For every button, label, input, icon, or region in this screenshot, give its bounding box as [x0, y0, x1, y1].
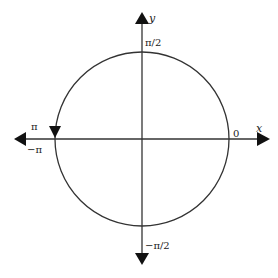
x-axis-label: x: [256, 122, 263, 135]
x-axis-left-arrow-icon: [14, 132, 26, 146]
unit-circle-diagram: y x π/2 −π/2 0 π −π: [0, 0, 278, 278]
label-neg-pi: −π: [27, 144, 42, 155]
label-neg-pi-half: −π/2: [145, 240, 170, 251]
y-axis-label: y: [148, 12, 156, 25]
label-pi-half: π/2: [145, 37, 161, 48]
y-axis-bottom-arrow-icon: [135, 253, 149, 265]
label-zero: 0: [233, 128, 239, 139]
circle-direction-arrow-icon: [49, 126, 61, 138]
y-axis-top-arrow-icon: [135, 12, 149, 24]
label-pi: π: [31, 121, 38, 132]
